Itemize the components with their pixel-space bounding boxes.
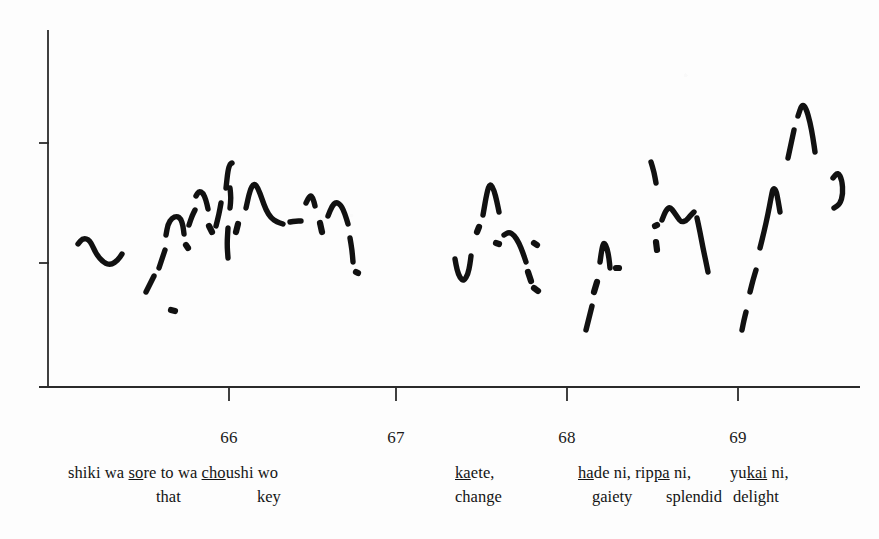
romaji-text: ushi wo [226, 463, 279, 482]
x-tick-label-67: 67 [376, 428, 416, 448]
segment-9 [209, 226, 212, 232]
romaji-group-3: hade ni, rippa ni, [578, 463, 691, 483]
segment-34 [655, 225, 657, 226]
segment-40 [750, 270, 756, 292]
gloss-change: change [455, 487, 502, 507]
segment-21-dot [356, 272, 358, 273]
segment-22 [455, 256, 471, 280]
segment-38 [651, 162, 656, 183]
accent-underline: pa [654, 463, 670, 482]
plot-canvas [0, 0, 879, 539]
x-tick-label-66: 66 [209, 428, 249, 448]
romaji-text: to wa [156, 463, 201, 482]
x-tick-label-68: 68 [547, 428, 587, 448]
segment-44 [833, 174, 843, 208]
segment-29 [534, 288, 538, 291]
accent-underline: ha [578, 463, 594, 482]
gloss-that: that [156, 487, 181, 507]
segment-42 [788, 130, 794, 158]
segment-6 [186, 245, 188, 248]
gloss-key: key [257, 487, 281, 507]
segment-25 [496, 243, 499, 244]
gloss-splendid: splendid [666, 487, 722, 507]
segment-17 [306, 196, 315, 206]
x-tick-label-69: 69 [718, 428, 758, 448]
segment-36 [662, 208, 694, 222]
romaji-text: yu [730, 463, 747, 482]
segment-35 [656, 242, 657, 250]
segment-26 [504, 233, 526, 262]
accent-underline: cho [202, 463, 226, 482]
gloss-gloss-gaiety: gaiety [592, 487, 632, 507]
romaji-text: ni, [767, 463, 788, 482]
segment-16 [290, 221, 301, 222]
segment-28 [528, 272, 531, 281]
axis-layer [39, 30, 860, 401]
segment-37 [697, 218, 708, 272]
segment-32 [600, 244, 610, 269]
segment-8 [196, 192, 208, 209]
romaji-text: ete, [471, 463, 495, 482]
romaji-text: ni, [670, 463, 691, 482]
segment-23 [477, 227, 479, 232]
romaji-group-2: kaete, [455, 463, 495, 483]
contour-trace-layer [78, 106, 843, 331]
segment-15 [246, 184, 283, 224]
accent-underline: ka [455, 463, 471, 482]
segment-13 [227, 228, 228, 258]
romaji-text: de ni, rip [594, 463, 654, 482]
segment-43 [798, 106, 815, 153]
segment-5-dot [171, 310, 175, 311]
segment-14 [236, 224, 238, 232]
segment-27 [534, 243, 537, 245]
gloss-delight: delight [733, 487, 779, 507]
segment-4 [166, 217, 184, 235]
segment-18 [320, 223, 322, 232]
segment-24 [483, 185, 499, 215]
segment-3 [159, 250, 165, 268]
segment-2 [146, 276, 154, 292]
segment-39 [742, 312, 746, 330]
romaji-group-4: yukai ni, [730, 463, 789, 483]
segment-12 [230, 188, 231, 208]
segment-19 [328, 203, 348, 224]
segment-41 [760, 189, 780, 248]
segment-20 [350, 238, 353, 262]
romaji-text: re [143, 463, 156, 482]
segment-10 [216, 203, 221, 226]
romaji-group-1: shiki wa sore to wa choushi wo [68, 463, 278, 483]
pitch-contour-figure: 66676869 shiki wa sore to wa choushi wok… [0, 0, 879, 539]
segment-31 [594, 282, 597, 292]
segment-11 [226, 163, 232, 188]
segment-7 [189, 210, 195, 225]
accent-underline: kai [747, 463, 767, 482]
romaji-text: shiki wa [68, 463, 128, 482]
segment-30 [586, 306, 592, 330]
segment-1 [78, 239, 122, 265]
